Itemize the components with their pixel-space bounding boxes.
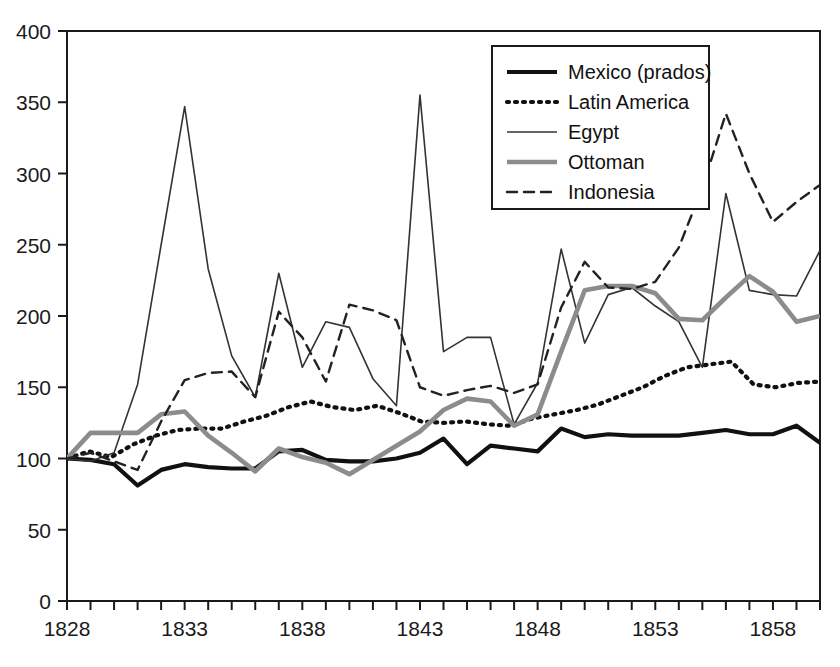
legend-label-5: Indonesia: [568, 181, 656, 203]
x-axis-tick-label: 1838: [279, 617, 326, 640]
x-axis-tick-label: 1853: [632, 617, 679, 640]
y-axis-tick-label: 150: [16, 376, 51, 399]
y-axis-tick-label: 400: [16, 20, 51, 43]
y-axis-tick-label: 200: [16, 305, 51, 328]
y-axis-tick-label: 50: [28, 519, 51, 542]
legend-label-3: Egypt: [568, 121, 620, 143]
x-axis-tick-label: 1848: [514, 617, 561, 640]
series-line: [67, 276, 820, 474]
legend-label-2: Latin America: [568, 91, 690, 113]
line-chart: 0501001502002503003504001828183318381843…: [0, 0, 840, 667]
legend-label-1: Mexico (prados): [568, 61, 711, 83]
x-axis-tick-label: 1828: [44, 617, 91, 640]
y-axis-tick-label: 100: [16, 448, 51, 471]
y-axis-tick-label: 300: [16, 163, 51, 186]
legend-label-4: Ottoman: [568, 151, 645, 173]
x-axis-tick-label: 1843: [397, 617, 444, 640]
x-axis-tick-label: 1858: [750, 617, 797, 640]
y-axis-tick-label: 0: [39, 590, 51, 613]
y-axis-tick-label: 250: [16, 234, 51, 257]
series-line: [67, 426, 820, 486]
y-axis-tick-label: 350: [16, 91, 51, 114]
chart-container: 0501001502002503003504001828183318381843…: [0, 0, 840, 667]
x-axis-tick-label: 1833: [161, 617, 208, 640]
